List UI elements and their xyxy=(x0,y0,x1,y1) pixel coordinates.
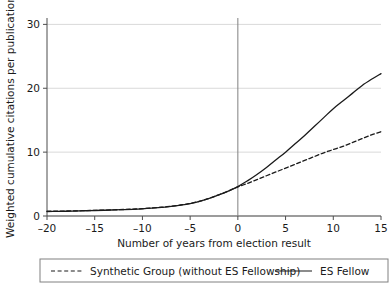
xtick-label-1: –15 xyxy=(85,222,104,234)
xtick-label-5: 5 xyxy=(282,222,289,234)
y-axis-title: Weighted cumulative citations per public… xyxy=(4,0,16,238)
chart-legend: Synthetic Group (without ES Fellowship) … xyxy=(40,259,388,282)
x-axis-title: Number of years from election result xyxy=(117,237,311,249)
legend-label-es-fellow: ES Fellow xyxy=(320,265,370,277)
legend-label-synthetic-group: Synthetic Group (without ES Fellowship) xyxy=(90,265,300,277)
chart-figure: 0102030 –20–15–10–5051015 Weighted cumul… xyxy=(0,0,391,290)
ytick-label-20: 20 xyxy=(27,82,40,94)
xtick-label-0: –20 xyxy=(38,222,57,234)
ytick-label-10: 10 xyxy=(27,146,40,158)
citations-line-chart: 0102030 –20–15–10–5051015 Weighted cumul… xyxy=(0,0,391,290)
ytick-label-30: 30 xyxy=(27,18,40,30)
xtick-label-2: –10 xyxy=(133,222,152,234)
xtick-label-7: 15 xyxy=(374,222,387,234)
xtick-label-4: 0 xyxy=(235,222,242,234)
ytick-label-0: 0 xyxy=(33,210,40,222)
xtick-label-6: 10 xyxy=(327,222,340,234)
xtick-label-3: –5 xyxy=(184,222,196,234)
